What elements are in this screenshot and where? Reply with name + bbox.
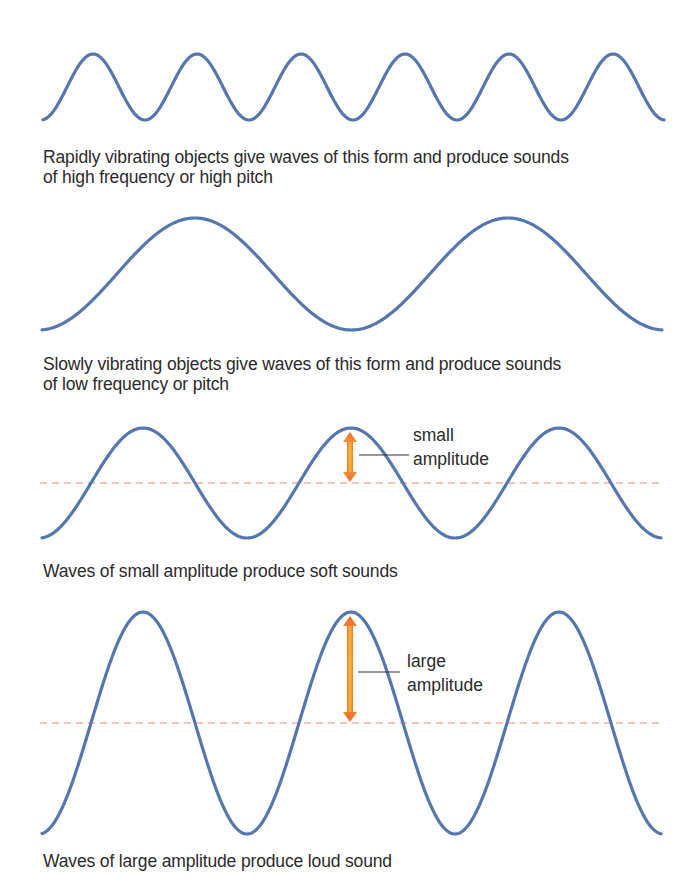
caption-line: Waves of large amplitude produce loud so… xyxy=(43,851,392,871)
caption-line: Slowly vibrating objects give waves of t… xyxy=(43,354,561,374)
large-amplitude-panel xyxy=(40,612,664,834)
low-frequency-panel xyxy=(42,218,662,330)
callout-line: amplitude xyxy=(407,673,483,697)
caption-line: Rapidly vibrating objects give waves of … xyxy=(43,147,569,167)
small-amplitude-arrow-icon xyxy=(343,432,357,482)
caption-line: of low frequency or pitch xyxy=(43,374,561,394)
large-amplitude-label: large amplitude xyxy=(407,649,483,697)
wave-diagram xyxy=(0,0,698,884)
callout-line: large xyxy=(407,649,483,673)
callout-line: amplitude xyxy=(413,447,489,471)
small-amplitude-panel xyxy=(40,428,664,538)
small-amplitude-caption: Waves of small amplitude produce soft so… xyxy=(43,561,398,581)
low-frequency-wave xyxy=(42,218,662,330)
caption-line: Waves of small amplitude produce soft so… xyxy=(43,561,398,581)
high-frequency-wave xyxy=(43,54,664,120)
high-frequency-caption: Rapidly vibrating objects give waves of … xyxy=(43,147,569,187)
low-frequency-caption: Slowly vibrating objects give waves of t… xyxy=(43,354,561,394)
large-amplitude-arrow-icon xyxy=(343,616,357,722)
high-frequency-panel xyxy=(43,54,664,120)
callout-line: small xyxy=(413,423,489,447)
caption-line: of high frequency or high pitch xyxy=(43,167,569,187)
large-amplitude-caption: Waves of large amplitude produce loud so… xyxy=(43,851,392,871)
small-amplitude-label: small amplitude xyxy=(413,423,489,471)
